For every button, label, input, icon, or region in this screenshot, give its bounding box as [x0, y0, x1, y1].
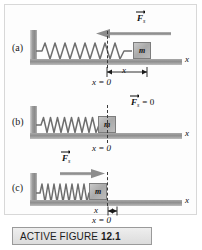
panel-c-label: (c)	[12, 182, 23, 193]
equilibrium-line-c	[107, 172, 108, 206]
force-symbol-c: F	[62, 153, 68, 163]
ground-b	[30, 133, 182, 139]
force-label-c: Fs	[62, 153, 70, 164]
force-symbol-b: F	[131, 97, 137, 107]
displacement-label-a: x	[122, 65, 126, 75]
ground-a	[30, 59, 182, 65]
vector-arrow-icon-b	[130, 93, 139, 98]
equilibrium-line-a	[107, 31, 108, 68]
block-c: m	[89, 183, 107, 200]
active-figure-12-1: (a) Fs	[0, 0, 202, 250]
caption-box[interactable]: ACTIVE FIGURE 12.1	[12, 227, 152, 245]
equilibrium-label-c: x = 0	[92, 215, 111, 225]
block-label-a: m	[139, 46, 145, 55]
force-subscript-a: s	[143, 18, 145, 24]
force-zero-b: = 0	[142, 97, 154, 107]
panel-a: (a) Fs	[0, 0, 202, 90]
force-subscript-c: s	[68, 158, 70, 164]
block-label-c: m	[95, 187, 101, 196]
block-a: m	[133, 42, 151, 59]
force-label-a: Fs	[137, 13, 145, 24]
displacement-dimension-a	[106, 66, 151, 78]
force-arrow-c	[60, 168, 106, 180]
vector-arrow-icon-a	[136, 9, 145, 14]
vector-arrow-icon-c	[61, 149, 70, 154]
axis-label-c: x	[185, 195, 189, 205]
equilibrium-label-a: x = 0	[92, 77, 111, 87]
caption-prefix: ACTIVE FIGURE	[20, 231, 98, 242]
force-subscript-b: s	[137, 102, 139, 108]
force-symbol-a: F	[137, 13, 143, 23]
panel-a-label: (a)	[12, 42, 23, 53]
axis-label-b: x	[185, 128, 189, 138]
equilibrium-line-b	[107, 105, 108, 143]
displacement-label-c: x	[94, 205, 98, 215]
panel-b-label: (b)	[12, 116, 24, 127]
panel-c: (c) Fs	[0, 152, 202, 215]
panel-b: (b) Fs= 0 m x x = 0	[0, 90, 202, 152]
caption-number: 12.1	[101, 231, 120, 242]
force-label-b: Fs= 0	[131, 97, 154, 108]
axis-label-a: x	[185, 54, 189, 64]
